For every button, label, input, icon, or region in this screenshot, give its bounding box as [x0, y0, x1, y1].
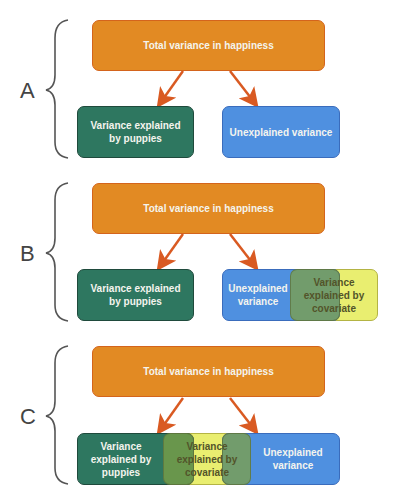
unexplained-variance-label-c: Unexplained variance [253, 446, 339, 472]
arrows-layer [0, 0, 398, 502]
total-variance-box-b: Total variance in happiness [92, 183, 325, 234]
panel-label-c: C [20, 404, 36, 430]
unexplained-variance-box-a: Unexplained variance [222, 106, 340, 158]
puppies-variance-box-a: Variance explained by puppies [77, 106, 194, 158]
covariate-label-b: Variance explained by covariate [290, 269, 378, 321]
total-variance-box-a: Total variance in happiness [92, 20, 325, 71]
puppies-variance-label-c: Variance explained by puppies [78, 440, 164, 479]
brace-a [46, 20, 68, 158]
brace-b [46, 183, 68, 321]
covariate-label-c: Variance explained by covariate [163, 433, 251, 485]
panel-label-b: B [20, 241, 35, 267]
panel-label-a: A [20, 78, 35, 104]
unexplained-variance-label-b: Unexplained variance [223, 282, 291, 308]
brace-c [46, 346, 68, 484]
total-variance-box-c: Total variance in happiness [92, 346, 325, 397]
puppies-variance-box-b: Variance explained by puppies [77, 269, 194, 321]
